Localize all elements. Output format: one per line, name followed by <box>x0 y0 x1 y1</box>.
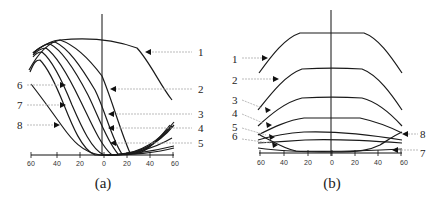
series-label-b-6: 6 <box>232 130 238 142</box>
series-label-a-4: 4 <box>198 122 204 134</box>
panel-b: 60 40 20 0 20 40 60 1 2 3 4 5 6 8 7 (b) <box>232 10 426 192</box>
series-label-a-5: 5 <box>198 137 204 149</box>
series-label-b-2: 2 <box>232 74 238 86</box>
tick-label: 20 <box>123 160 131 167</box>
tick-label: 60 <box>171 160 179 167</box>
tick-label: 0 <box>330 159 334 166</box>
panel-a: 60 40 20 0 20 40 60 1 2 3 4 5 6 7 8 (a) <box>17 14 204 192</box>
curve-b-6 <box>258 140 402 143</box>
series-label-a-2: 2 <box>198 83 204 95</box>
tick-label: 40 <box>146 160 154 167</box>
series-label-b-7: 7 <box>420 147 426 159</box>
tick-label: 40 <box>53 160 61 167</box>
tick-label: 60 <box>257 159 265 166</box>
figure: 60 40 20 0 20 40 60 1 2 3 4 5 6 7 8 (a) <box>0 0 443 204</box>
tick-label: 20 <box>351 159 359 166</box>
curve-b-5 <box>258 132 402 140</box>
series-label-a-6: 6 <box>17 79 23 91</box>
series-label-b-4: 4 <box>232 107 238 119</box>
tick-label: 40 <box>374 159 382 166</box>
series-label-b-3: 3 <box>232 94 238 106</box>
tick-label: 40 <box>280 159 288 166</box>
series-label-a-7: 7 <box>17 99 23 111</box>
tick-label: 20 <box>76 160 84 167</box>
curve-a-1 <box>29 39 172 100</box>
series-label-b-8: 8 <box>420 128 426 140</box>
series-label-a-3: 3 <box>198 108 204 120</box>
tick-label: 60 <box>27 160 35 167</box>
series-label-a-1: 1 <box>198 46 204 58</box>
caption-b: (b) <box>323 175 341 192</box>
curve-a-5 <box>33 48 174 155</box>
curve-b-3 <box>258 97 402 126</box>
series-label-a-8: 8 <box>17 119 23 131</box>
curve-a-4 <box>33 44 174 154</box>
caption-a: (a) <box>95 175 112 192</box>
curve-b-2 <box>258 68 402 110</box>
tick-label: 0 <box>102 160 106 167</box>
arrowheads-b <box>262 55 408 153</box>
tick-label: 60 <box>400 159 408 166</box>
tick-label: 20 <box>304 159 312 166</box>
series-label-b-1: 1 <box>232 53 238 65</box>
